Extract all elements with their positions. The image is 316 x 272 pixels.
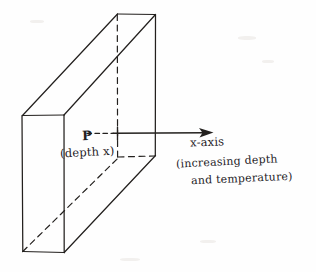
edge-top-front-left (23, 14, 118, 116)
edge-top-front (23, 115, 65, 116)
x-axis-solid-segment (113, 133, 207, 134)
edge-hidden-bottom-back (118, 156, 155, 157)
edge-hidden-bottom-diagonal (23, 159, 118, 252)
edge-front-bottom (23, 252, 64, 253)
edge-top-back (118, 14, 156, 15)
slab-diagram-svg (0, 0, 316, 272)
label-depth-annotation: (depth x) (60, 144, 115, 161)
label-x-axis: x-axis (190, 134, 225, 149)
edge-top-front-right (64, 15, 156, 116)
edge-front-left-vertical (22, 116, 23, 252)
label-point-p: P (82, 128, 93, 143)
edge-bottom-front-right (64, 156, 155, 253)
figure-canvas: P (depth x) x-axis (increasing depth and… (0, 0, 316, 272)
